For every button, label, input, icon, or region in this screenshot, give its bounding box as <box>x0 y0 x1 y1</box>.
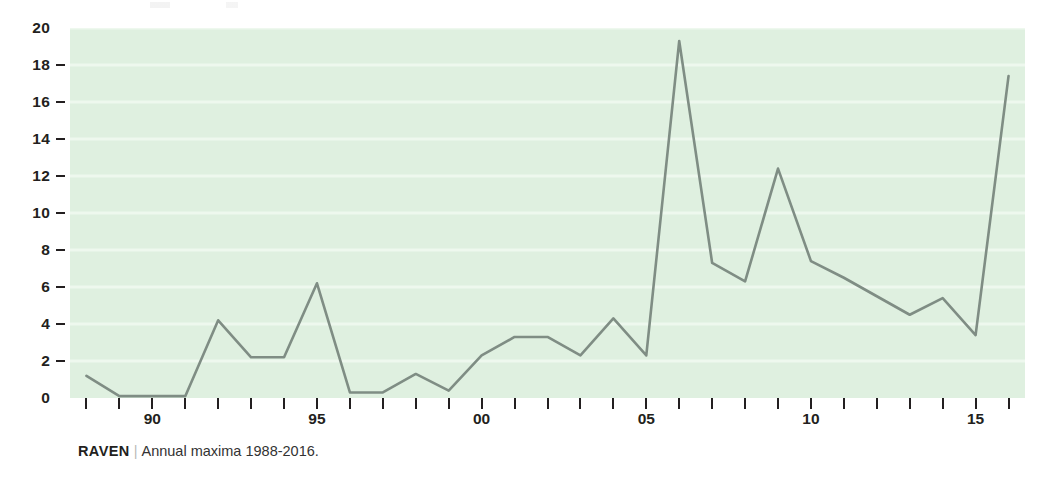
y-tick-label: 16 <box>32 94 50 110</box>
x-tick-label: 95 <box>308 411 325 427</box>
x-tick-mark <box>349 398 351 409</box>
x-tick-mark <box>547 398 549 409</box>
x-axis: 909500051015 <box>70 398 1025 440</box>
y-tick-mark <box>56 286 65 288</box>
caption-separator: | <box>134 443 138 459</box>
y-tick-label: 18 <box>32 57 50 73</box>
y-tick-mark <box>56 138 65 140</box>
x-tick-mark <box>843 398 845 409</box>
y-tick-mark <box>56 397 65 399</box>
y-axis: 02468101214161820 <box>0 28 70 398</box>
x-tick-mark <box>382 398 384 409</box>
y-tick-mark <box>56 175 65 177</box>
x-tick-mark <box>283 398 285 409</box>
x-tick-mark <box>316 398 318 409</box>
caption-text: Annual maxima 1988-2016. <box>141 443 318 459</box>
x-tick-label: 10 <box>802 411 819 427</box>
line-chart-svg <box>70 28 1025 398</box>
y-tick-label: 12 <box>32 168 50 184</box>
y-tick-mark <box>56 27 65 29</box>
scan-artifact <box>150 2 320 8</box>
y-tick-label: 20 <box>32 20 50 36</box>
x-tick-mark <box>942 398 944 409</box>
y-tick-label: 10 <box>32 205 50 221</box>
x-tick-mark <box>579 398 581 409</box>
x-tick-mark <box>151 398 153 409</box>
x-tick-mark <box>217 398 219 409</box>
y-tick-mark <box>56 212 65 214</box>
x-tick-label: 05 <box>638 411 655 427</box>
y-tick-label: 4 <box>41 316 50 332</box>
x-tick-mark <box>184 398 186 409</box>
x-tick-mark <box>711 398 713 409</box>
y-tick-mark <box>56 323 65 325</box>
x-tick-mark <box>876 398 878 409</box>
x-tick-mark <box>448 398 450 409</box>
x-tick-mark <box>1008 398 1010 409</box>
y-tick-mark <box>56 64 65 66</box>
y-tick-mark <box>56 249 65 251</box>
x-tick-label: 00 <box>473 411 490 427</box>
y-tick-label: 14 <box>32 131 50 147</box>
x-tick-mark <box>645 398 647 409</box>
y-tick-label: 2 <box>41 353 50 369</box>
x-tick-mark <box>612 398 614 409</box>
x-tick-mark <box>909 398 911 409</box>
y-tick-label: 0 <box>41 390 50 406</box>
x-tick-label: 15 <box>967 411 984 427</box>
x-tick-mark <box>975 398 977 409</box>
x-tick-mark <box>777 398 779 409</box>
caption-source: RAVEN <box>78 443 130 459</box>
figure-caption: RAVEN|Annual maxima 1988-2016. <box>78 444 319 459</box>
x-tick-mark <box>678 398 680 409</box>
x-tick-label: 90 <box>144 411 161 427</box>
x-tick-mark <box>744 398 746 409</box>
x-tick-mark <box>250 398 252 409</box>
plot-area <box>70 28 1025 398</box>
chart-figure: 02468101214161820 909500051015 RAVEN|Ann… <box>0 0 1060 480</box>
x-tick-mark <box>481 398 483 409</box>
x-tick-mark <box>415 398 417 409</box>
x-tick-mark <box>85 398 87 409</box>
x-tick-mark <box>810 398 812 409</box>
y-tick-mark <box>56 101 65 103</box>
x-tick-mark <box>514 398 516 409</box>
y-tick-label: 6 <box>41 279 50 295</box>
gridlines <box>70 28 1025 361</box>
y-tick-label: 8 <box>41 242 50 258</box>
x-tick-mark <box>118 398 120 409</box>
data-series-line <box>86 41 1008 396</box>
y-tick-mark <box>56 360 65 362</box>
